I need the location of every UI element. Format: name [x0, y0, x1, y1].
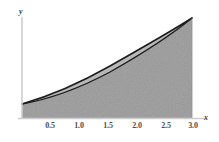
xtick-label-5: 3.0: [181, 121, 205, 130]
x-axis-label: x: [204, 113, 208, 122]
xtick-label-2: 1.5: [96, 121, 120, 130]
chart-figure: 0.5 1.0 1.5 2.0 2.5 3.0 y x: [0, 0, 219, 142]
xtick-label-1: 1.0: [67, 121, 91, 130]
y-axis-label: y: [19, 7, 23, 16]
xtick-label-4: 2.5: [154, 121, 178, 130]
xtick-label-3: 2.0: [125, 121, 149, 130]
xtick-label-0: 0.5: [38, 121, 62, 130]
